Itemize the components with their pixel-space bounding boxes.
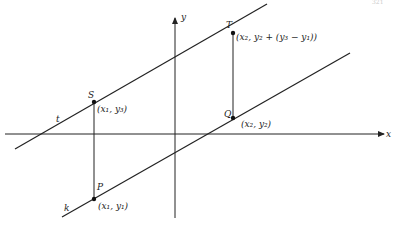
x-axis-label: x <box>386 129 391 139</box>
point-p-coords: (x₁, y₁) <box>98 201 129 211</box>
point-s <box>92 100 96 104</box>
point-p-name: P <box>96 182 104 192</box>
point-q-name: Q <box>224 109 232 119</box>
point-q <box>231 116 235 120</box>
point-t <box>231 31 235 35</box>
point-s-coords: (x₁, y₃) <box>97 104 128 114</box>
point-t-coords: (x₂, y₂ + (y₃ − y₁)) <box>236 32 318 42</box>
diagram-canvas: 321 x y t k S (x₁, y₃) P (x₁, y₁) T (x₂,… <box>0 0 394 228</box>
page-number: 321 <box>372 0 383 5</box>
line-t-label: t <box>56 114 60 124</box>
point-s-name: S <box>88 90 94 100</box>
point-t-name: T <box>226 20 233 30</box>
y-axis-label: y <box>180 12 187 22</box>
point-q-coords: (x₂, y₂) <box>241 119 272 129</box>
point-p <box>92 197 96 201</box>
line-k <box>62 53 350 217</box>
line-k-label: k <box>64 203 69 213</box>
